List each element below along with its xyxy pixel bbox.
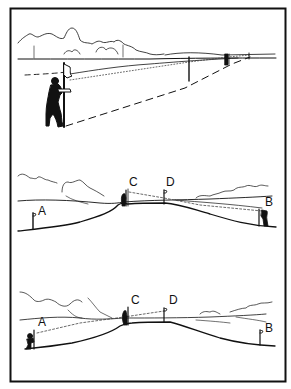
surveyor-at-b (259, 209, 268, 226)
label-d: D (166, 175, 175, 189)
bush-2 (96, 47, 118, 54)
horizon (20, 314, 266, 320)
clouds-right (196, 185, 268, 198)
label-d: D (169, 293, 178, 307)
label-b: B (265, 195, 273, 209)
surveyor-at-c (122, 307, 128, 325)
label-c: C (129, 175, 138, 189)
clouds-left (20, 292, 82, 306)
flag-near (64, 64, 72, 78)
panel-1 (18, 28, 276, 127)
label-c: C (131, 293, 140, 307)
clouds-right (200, 311, 220, 314)
panel-3: C D A B (20, 292, 275, 349)
panel-2: C D A B (18, 174, 276, 231)
distant-hill (165, 53, 275, 55)
field-edge (70, 58, 238, 74)
hill-ground (25, 322, 275, 349)
label-a: A (38, 204, 46, 218)
surveyor-figure (46, 78, 71, 128)
label-b: B (265, 321, 273, 335)
bush-1 (64, 50, 80, 54)
dashed-line-lower (66, 57, 250, 126)
treeline (18, 28, 164, 55)
clouds-left (18, 174, 57, 183)
far-surveyor (225, 54, 229, 65)
horizon (18, 196, 272, 203)
hill-ground (18, 203, 276, 231)
label-a: A (38, 315, 46, 329)
dashed-line-upper (25, 72, 66, 75)
surveyor-at-a (26, 330, 34, 349)
illustration: C D A B (0, 0, 291, 389)
